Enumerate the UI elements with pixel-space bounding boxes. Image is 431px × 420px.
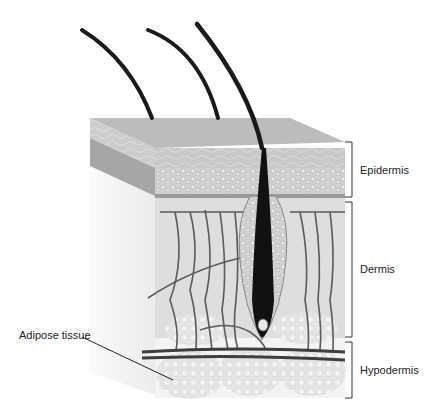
label-dermis: Dermis bbox=[360, 263, 395, 275]
layer-brackets bbox=[345, 142, 352, 398]
label-hypodermis: Hypodermis bbox=[360, 364, 419, 376]
label-epidermis: Epidermis bbox=[360, 164, 409, 176]
label-adipose-tissue: Adipose tissue bbox=[19, 329, 91, 341]
epidermis-layer bbox=[155, 148, 345, 198]
skin-illustration bbox=[0, 0, 431, 420]
skin-diagram: Epidermis Dermis Hypodermis Adipose tiss… bbox=[0, 0, 431, 420]
block-left-face bbox=[90, 118, 155, 395]
